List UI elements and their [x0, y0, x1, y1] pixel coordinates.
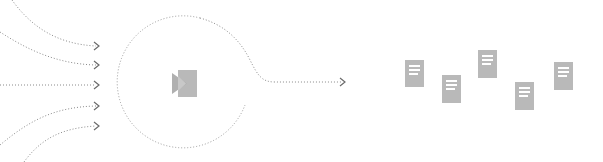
- document-icon: [478, 50, 497, 78]
- input-flow-5: [24, 122, 99, 162]
- import-icon: [172, 70, 197, 97]
- document-icon: [515, 82, 534, 110]
- input-flow-3: [0, 81, 99, 89]
- input-flow-2: [0, 32, 99, 69]
- input-flow-1: [12, 0, 99, 50]
- flow-diagram: [0, 0, 603, 162]
- document-icon: [442, 75, 461, 103]
- document-icon: [554, 62, 573, 90]
- input-flows: [0, 0, 99, 162]
- output-flow: [200, 18, 342, 82]
- arrowhead-icon: [94, 102, 99, 110]
- input-flow-4: [0, 102, 99, 145]
- arrowhead-icon: [94, 42, 99, 50]
- arrowhead-icon: [94, 81, 99, 89]
- processor: [117, 16, 345, 148]
- arrowhead-icon: [94, 61, 99, 69]
- arrowhead-icon: [94, 122, 99, 130]
- document-icon: [405, 60, 424, 87]
- output-documents: [405, 50, 573, 110]
